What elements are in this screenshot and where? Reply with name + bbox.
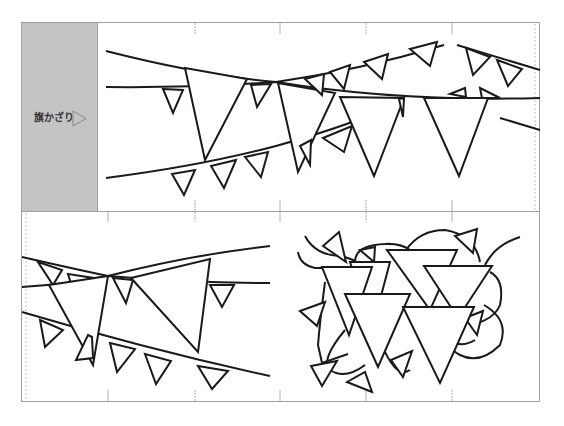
triangle-right-icon (73, 111, 86, 126)
artwork (0, 0, 564, 426)
bunting-template-sheet: 旗かざり (0, 0, 564, 426)
bottom-right-bunting (298, 229, 520, 392)
bottom-left-bunting (22, 246, 270, 389)
top-bunting (106, 42, 540, 195)
